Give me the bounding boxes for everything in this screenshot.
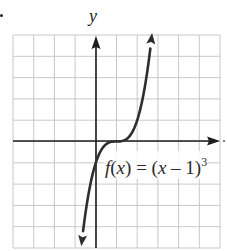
label-eq: = ( <box>131 157 158 178</box>
cubic-function-graph <box>0 0 227 251</box>
function-label: f(x) = (x – 1)3 <box>104 151 208 179</box>
curve-bottom-arrow-icon <box>78 235 87 246</box>
label-exponent: 3 <box>201 155 207 169</box>
label-var: x <box>117 157 125 178</box>
label-minus: – 1) <box>166 157 201 178</box>
